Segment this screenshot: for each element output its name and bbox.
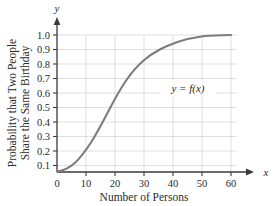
xtick-label-20: 20 (110, 178, 121, 189)
curve-annotation-group: y = f(x) (160, 80, 216, 97)
ytick-label-0.7: 0.7 (37, 73, 50, 84)
ytick-label-0.9: 0.9 (37, 44, 50, 55)
ytick-label-0.3: 0.3 (37, 131, 50, 142)
xtick-label-0: 0 (54, 178, 59, 189)
x-axis-title: Number of Persons (100, 191, 189, 203)
y-axis-title: Probability that Two People Share the Sa… (6, 39, 32, 167)
xtick-label-50: 50 (197, 178, 208, 189)
x-axis-variable-label: x (263, 166, 269, 178)
xtick-label-60: 60 (226, 178, 237, 189)
ytick-label-0.8: 0.8 (37, 59, 50, 70)
ytick-label-0.5: 0.5 (37, 102, 50, 113)
ytick-label-0.4: 0.4 (37, 117, 51, 128)
ytick-label-1.0: 1.0 (37, 30, 50, 41)
y-axis-title-line1: Probability that Two People (6, 39, 19, 167)
ytick-label-0.6: 0.6 (37, 88, 50, 99)
birthday-probability-chart: 1.0 0.9 0.8 0.7 0.6 0.5 0.4 0.3 0.2 0.1 … (0, 0, 278, 206)
chart-figure: 1.0 0.9 0.8 0.7 0.6 0.5 0.4 0.3 0.2 0.1 … (0, 0, 278, 206)
xtick-label-10: 10 (81, 178, 92, 189)
y-axis-title-line2: Share the Same Birthday (19, 45, 32, 160)
y-axis-variable-label: y (54, 2, 60, 14)
ytick-label-0.1: 0.1 (37, 160, 50, 171)
xtick-label-40: 40 (168, 178, 179, 189)
xtick-label-30: 30 (139, 178, 150, 189)
curve-equation-label: y = f(x) (170, 82, 204, 95)
ytick-label-0.2: 0.2 (37, 146, 50, 157)
